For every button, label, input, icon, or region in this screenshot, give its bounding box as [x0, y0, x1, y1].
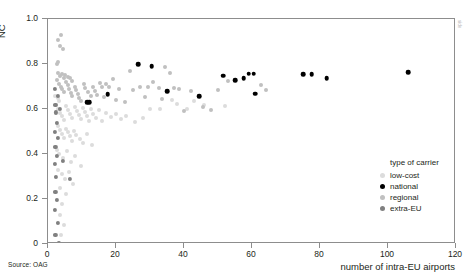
data-point-regional — [79, 99, 83, 103]
data-point-national — [136, 62, 141, 67]
data-point-regional — [189, 89, 193, 93]
data-point-national — [325, 76, 330, 81]
data-point-national — [197, 94, 202, 99]
data-point-regional — [62, 90, 66, 94]
data-point-regional — [55, 62, 59, 66]
data-point-low-cost — [60, 202, 64, 206]
data-point-regional — [107, 85, 111, 89]
legend: type of carrier low-costnationalregional… — [378, 158, 458, 214]
legend-title: type of carrier — [390, 158, 458, 167]
data-point-low-cost — [90, 143, 94, 147]
data-point-national — [165, 89, 170, 94]
data-point-extra-EU — [55, 221, 59, 225]
data-point-regional — [59, 33, 63, 37]
data-point-extra-EU — [53, 190, 57, 194]
data-point-low-cost — [109, 115, 113, 119]
data-point-national — [241, 76, 246, 81]
data-point-low-cost — [59, 233, 63, 237]
data-point-national — [87, 100, 92, 105]
data-point-extra-EU — [56, 93, 60, 97]
legend-item-label: low-cost — [390, 171, 419, 180]
data-point-regional — [70, 79, 74, 83]
data-point-national — [406, 70, 411, 75]
data-point-low-cost — [65, 149, 69, 153]
data-point-extra-EU — [53, 129, 57, 133]
legend-item-label: extra-EU — [390, 204, 422, 213]
data-point-regional — [163, 65, 167, 69]
x-axis-tick — [251, 243, 252, 248]
legend-item-regional[interactable]: regional — [378, 192, 458, 203]
data-point-regional — [216, 88, 220, 92]
data-point-extra-EU — [53, 162, 57, 166]
legend-marker-icon — [380, 184, 385, 189]
x-axis-tick — [115, 243, 116, 248]
data-point-low-cost — [85, 132, 89, 136]
data-point-low-cost — [67, 170, 71, 174]
data-point-regional — [151, 80, 155, 84]
data-point-regional — [100, 85, 104, 89]
data-point-extra-EU — [55, 136, 59, 140]
data-point-extra-EU — [53, 233, 57, 237]
data-point-regional — [89, 94, 93, 98]
data-point-low-cost — [64, 192, 68, 196]
data-point-low-cost — [62, 118, 66, 122]
x-axis-tick — [183, 243, 184, 248]
data-point-regional — [138, 85, 142, 89]
data-point-regional — [56, 38, 60, 42]
data-point-national — [149, 64, 154, 69]
legend-item-low-cost[interactable]: low-cost — [378, 170, 458, 181]
data-point-regional — [168, 71, 172, 75]
x-axis-tick — [455, 243, 456, 248]
data-point-regional — [123, 100, 127, 104]
data-point-national — [233, 78, 238, 83]
data-point-regional — [259, 83, 263, 87]
x-axis-tick — [47, 243, 48, 248]
x-axis-tick-label: 60 — [231, 249, 271, 259]
y-axis-tick-label: 0.2 — [4, 193, 38, 203]
data-point-low-cost — [79, 117, 83, 121]
x-axis-tick-label: 40 — [163, 249, 203, 259]
data-point-low-cost — [114, 112, 118, 116]
data-point-regional — [143, 95, 147, 99]
data-point-low-cost — [62, 223, 66, 227]
legend-item-national[interactable]: national — [378, 181, 458, 192]
data-point-regional — [201, 105, 205, 109]
x-axis-tick-label: 100 — [367, 249, 407, 259]
data-point-regional — [172, 86, 176, 90]
data-point-low-cost — [60, 132, 64, 136]
y-axis-tick-label: 0.4 — [4, 148, 38, 158]
data-point-extra-EU — [68, 177, 72, 181]
data-point-national — [253, 91, 258, 96]
data-point-low-cost — [62, 136, 66, 140]
data-point-low-cost — [87, 119, 91, 123]
data-point-low-cost — [119, 117, 123, 121]
x-axis-title: number of intra-EU airports — [340, 261, 455, 272]
y-axis-tick-label: 0 — [4, 238, 38, 248]
data-point-low-cost — [81, 141, 85, 145]
data-point-national — [309, 72, 314, 77]
data-point-national — [246, 71, 251, 76]
data-point-regional — [111, 77, 115, 81]
data-point-low-cost — [73, 154, 77, 158]
x-axis-tick-label: 120 — [435, 249, 473, 259]
data-point-regional — [157, 86, 161, 90]
data-point-regional — [95, 93, 99, 97]
legend-item-extra-eu[interactable]: extra-EU — [378, 203, 458, 214]
data-point-extra-EU — [61, 159, 65, 163]
data-point-extra-EU — [53, 87, 57, 91]
data-point-low-cost — [74, 133, 78, 137]
x-axis-tick — [319, 243, 320, 248]
data-point-regional — [226, 79, 230, 83]
data-point-low-cost — [94, 116, 98, 120]
y-axis-title: NC — [0, 24, 7, 38]
data-point-regional — [131, 88, 135, 92]
data-point-regional — [70, 94, 74, 98]
data-point-low-cost — [56, 168, 60, 172]
data-point-low-cost — [141, 116, 145, 120]
data-point-regional — [177, 87, 181, 91]
data-point-low-cost — [192, 99, 196, 103]
y-axis-tick-label: 1.0 — [4, 13, 38, 23]
x-axis-tick-label: 0 — [27, 249, 67, 259]
data-point-extra-EU — [55, 198, 59, 202]
data-point-regional — [160, 97, 164, 101]
